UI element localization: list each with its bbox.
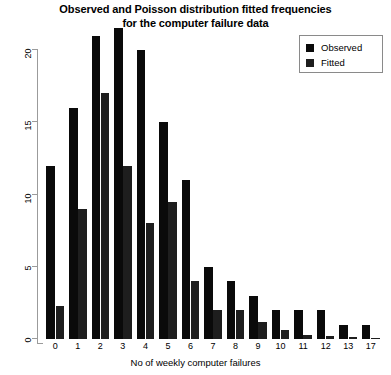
bar-fitted-5 <box>168 202 177 339</box>
y-axis-tick <box>32 194 37 195</box>
bar-observed-0 <box>46 166 55 339</box>
x-axis-tick-label: 6 <box>179 341 202 351</box>
x-axis-tick-label: 12 <box>314 341 337 351</box>
x-axis-tick-label: 2 <box>89 341 112 351</box>
x-axis-title: No of weekly computer failures <box>0 357 391 368</box>
bar-fitted-2 <box>101 93 110 339</box>
bar-fitted-13 <box>349 337 358 339</box>
bars-layer <box>44 40 382 339</box>
x-axis-corner-line <box>37 343 43 344</box>
bar-observed-5 <box>159 122 168 339</box>
bar-observed-2 <box>92 36 101 339</box>
bar-fitted-17 <box>371 338 380 339</box>
x-axis-tick-label: 0 <box>44 341 67 351</box>
bar-observed-17 <box>362 325 371 339</box>
x-axis-tick-label: 8 <box>224 341 247 351</box>
bar-observed-11 <box>294 310 303 339</box>
bar-fitted-7 <box>213 310 222 339</box>
x-axis-tick-label: 13 <box>337 341 360 351</box>
x-axis-tick-label: 1 <box>67 341 90 351</box>
y-axis-tick <box>32 49 37 50</box>
chart-title: Observed and Poisson distribution fitted… <box>0 2 391 30</box>
bar-observed-3 <box>114 28 123 339</box>
x-axis-tick-label: 17 <box>359 341 382 351</box>
bar-fitted-3 <box>123 166 132 339</box>
bar-observed-4 <box>137 50 146 339</box>
y-axis-tick-label: 20 <box>24 49 33 77</box>
x-axis-tick-label: 10 <box>269 341 292 351</box>
x-axis-tick-label: 3 <box>112 341 135 351</box>
x-axis-tick-label: 5 <box>157 341 180 351</box>
bar-fitted-10 <box>281 330 290 339</box>
bar-observed-6 <box>182 180 191 339</box>
x-axis-tick-label: 11 <box>292 341 315 351</box>
bar-fitted-11 <box>303 335 312 339</box>
y-axis-tick-label: 10 <box>24 193 33 221</box>
bar-observed-10 <box>272 310 281 339</box>
bar-observed-12 <box>317 310 326 339</box>
bar-fitted-0 <box>56 306 65 339</box>
bar-fitted-1 <box>78 209 87 339</box>
y-axis-tick-label: 15 <box>24 121 33 149</box>
y-axis-tick <box>32 266 37 267</box>
bar-observed-1 <box>69 108 78 339</box>
x-axis-tick-label: 9 <box>247 341 270 351</box>
bar-observed-9 <box>249 296 258 339</box>
bar-fitted-6 <box>191 281 200 339</box>
bar-observed-13 <box>339 325 348 339</box>
y-axis-tick <box>32 121 37 122</box>
bar-observed-8 <box>227 281 236 339</box>
bar-fitted-9 <box>258 322 267 339</box>
chart-container: Observed and Poisson distribution fitted… <box>0 0 391 375</box>
chart-title-line-1: Observed and Poisson distribution fitted… <box>0 2 391 16</box>
bar-fitted-12 <box>326 336 335 339</box>
chart-title-line-2: for the computer failure data <box>0 16 391 30</box>
bar-observed-7 <box>204 267 213 339</box>
y-axis <box>37 49 38 339</box>
bar-fitted-4 <box>146 223 155 339</box>
x-axis-tick-label: 4 <box>134 341 157 351</box>
bar-fitted-8 <box>236 310 245 339</box>
x-axis-tick-label: 7 <box>202 341 225 351</box>
y-axis-tick-label: 5 <box>24 265 33 293</box>
